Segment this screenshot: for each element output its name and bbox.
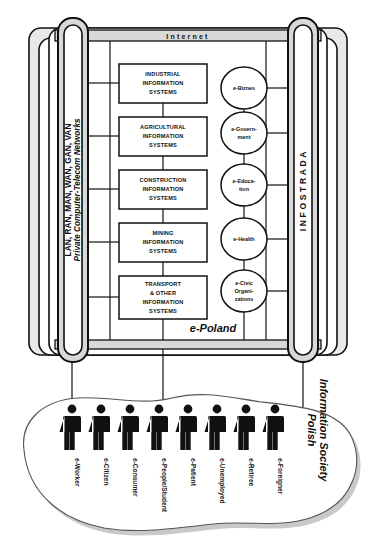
sys-box-line: INFORMATION [143, 299, 184, 305]
e-service-circle [221, 164, 267, 206]
e-service-line: e-Civic [235, 280, 253, 286]
sys-box-line: INFORMATION [143, 186, 184, 192]
sys-box-line: & OTHER [150, 290, 176, 296]
epoland-bottom-bar-rect [55, 340, 321, 349]
left-pillar-label-line1: LAN, RAN, MAN, WAN, GAN, VAN [63, 124, 73, 257]
sys-box-line: AGRICULTURAL [140, 124, 186, 130]
right-pillar-infostrada[interactable]: INFOSTRADA [288, 18, 318, 362]
person-label: e-Unemployed [218, 458, 226, 503]
person-head [271, 405, 280, 414]
person-head [126, 405, 135, 414]
sys-box-line: INDUSTRIAL [145, 71, 181, 77]
person-label: e-Retiree [248, 458, 255, 487]
sys-box-line: SYSTEMS [149, 308, 177, 314]
sys-box-line: TRANSPORT [145, 281, 182, 287]
person-head [184, 405, 193, 414]
e-service-line: e-Educa- [233, 178, 256, 184]
sys-box-line: INFORMATION [143, 80, 184, 86]
person-head [68, 405, 77, 414]
sys-box-line: SYSTEMS [149, 195, 177, 201]
person-label: e-Patient [190, 458, 197, 487]
e-service-line: zations [235, 296, 254, 302]
left-pillar-label-line2: Private Computer-Telecom Networks [73, 118, 82, 261]
page-title: e-Poland [190, 322, 237, 334]
person-label: e-Citizen [103, 458, 110, 485]
e-service-line: e-Govern- [231, 126, 257, 132]
e-service-line: tion [239, 186, 249, 192]
person-label: e-Foreigner [276, 458, 284, 495]
right-pillar-label: INFOSTRADA [298, 149, 308, 231]
left-pillar-networks[interactable]: LAN, RAN, MAN, WAN, GAN, VAN Private Com… [58, 18, 88, 362]
person-label: e-Worker [74, 458, 81, 487]
diagram-canvas: Internet LAN, RAN, MAN, WAN, GAN, VAN Pr… [0, 0, 373, 543]
sys-box-line: MINING [152, 230, 173, 236]
e-poland-diagram: Internet LAN, RAN, MAN, WAN, GAN, VAN Pr… [0, 0, 373, 543]
person-head [213, 405, 222, 414]
sys-box-line: SYSTEMS [149, 248, 177, 254]
sys-box-line: SYSTEMS [149, 142, 177, 148]
person-head [97, 405, 106, 414]
sys-box-line: INFORMATION [143, 133, 184, 139]
e-service-line: e-Health [233, 236, 254, 242]
e-service-line: ment [238, 134, 251, 140]
sys-box-line: INFORMATION [143, 239, 184, 245]
sys-box-line: CONSTRUCTION [140, 177, 187, 183]
internet-bar: Internet [55, 30, 321, 41]
person-label: e-People/Student [160, 458, 168, 513]
person-label: e-Consumer [132, 458, 139, 497]
person-head [242, 405, 251, 414]
e-service-line: Organi- [234, 288, 253, 294]
polish-information-society[interactable]: e-Worker e-Citizen e-Consumer e-People/S… [24, 379, 361, 536]
e-service-circle [221, 112, 267, 154]
person-head [155, 405, 164, 414]
internet-label: Internet [166, 33, 209, 40]
society-label-line1: Polish [306, 413, 318, 446]
sys-box-line: SYSTEMS [149, 89, 177, 95]
e-service-line: e-Biznes [233, 85, 255, 91]
society-label-line2: Information Society [318, 379, 330, 483]
epoland-bottom-bar [55, 340, 321, 349]
